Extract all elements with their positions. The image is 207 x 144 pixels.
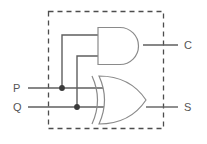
input-label-q: Q	[13, 101, 22, 113]
input-label-p: P	[13, 82, 20, 94]
xor-gate-body	[99, 76, 146, 124]
output-label-s: S	[184, 101, 191, 113]
junction-dot-q	[74, 104, 80, 110]
junction-dot-p	[59, 85, 65, 91]
circuit-canvas: P Q C S	[0, 0, 207, 144]
output-label-c: C	[184, 39, 192, 51]
half-adder-diagram: P Q C S	[0, 0, 207, 144]
and-gate-body	[98, 28, 139, 65]
xor-gate-back-arc	[92, 76, 98, 124]
wire-p-to-and	[62, 35, 98, 88]
